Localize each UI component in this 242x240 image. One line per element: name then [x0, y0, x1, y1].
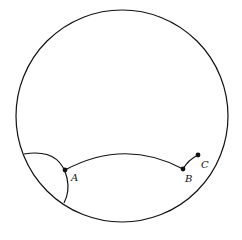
point-c: [196, 153, 201, 158]
geodesic-a-b: [65, 154, 183, 170]
label-c: C: [201, 159, 209, 170]
left-geodesic-arc: [24, 153, 68, 203]
hyperbolic-disk-diagram: A B C: [0, 0, 242, 240]
geodesic-b-c: [183, 155, 198, 169]
point-b: [181, 167, 186, 172]
label-b: B: [184, 173, 192, 184]
label-a: A: [70, 172, 78, 183]
point-a: [63, 168, 68, 173]
boundary-circle: [16, 10, 228, 222]
